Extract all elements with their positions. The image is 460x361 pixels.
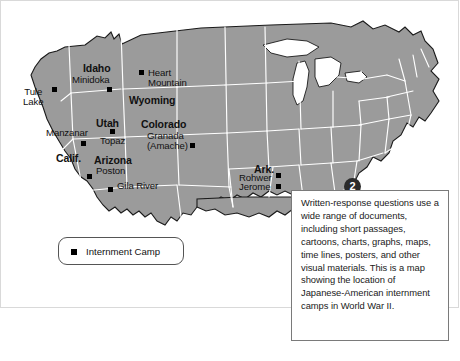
camp-marker-jerome bbox=[276, 184, 281, 189]
state-label-idaho: Idaho bbox=[83, 63, 111, 74]
camp-label-heart-mountain-line2: Mountain bbox=[148, 78, 187, 88]
camp-marker-poston bbox=[87, 174, 92, 179]
camp-label-minidoka: Minidoka bbox=[72, 75, 110, 85]
camp-marker-heart-mountain bbox=[139, 70, 144, 75]
camp-label-jerome: Jerome bbox=[239, 182, 270, 192]
map-legend: Internment Camp bbox=[58, 237, 184, 265]
camp-label-granada-line2: (Amache) bbox=[147, 141, 188, 151]
camp-marker-granada-amache bbox=[190, 143, 195, 148]
callout-box: Written-response questions use a wide ra… bbox=[291, 190, 449, 341]
camp-marker-gila-river bbox=[108, 187, 113, 192]
camp-marker-manzanar bbox=[81, 141, 86, 146]
figure-root: Idaho Wyoming Utah Colorado Calif. Arizo… bbox=[0, 0, 460, 361]
state-label-calif: Calif. bbox=[56, 153, 81, 164]
camp-label-topaz: Topaz bbox=[100, 136, 125, 146]
camp-label-poston: Poston bbox=[96, 166, 125, 176]
state-label-utah: Utah bbox=[96, 118, 119, 129]
legend-label: Internment Camp bbox=[86, 246, 160, 257]
camp-marker-tule-lake bbox=[52, 87, 57, 92]
camp-label-gila-river: Gila River bbox=[117, 181, 158, 191]
camp-label-manzanar: Manzanar bbox=[46, 128, 88, 138]
camp-marker-minidoka bbox=[107, 87, 112, 92]
camp-label-heart-mountain: Heart Mountain bbox=[148, 68, 187, 87]
state-label-wyoming: Wyoming bbox=[129, 95, 175, 106]
camp-marker-topaz bbox=[110, 129, 115, 134]
camp-label-tule-lake-line2: Lake bbox=[23, 97, 43, 107]
state-label-colorado: Colorado bbox=[141, 119, 186, 130]
camp-label-tule-lake: Tule Lake bbox=[23, 87, 43, 106]
camp-marker-rohwer bbox=[276, 173, 281, 178]
legend-square-icon bbox=[71, 249, 77, 255]
camp-label-granada-amache: Granada (Amache) bbox=[147, 131, 188, 150]
callout-text: Written-response questions use a wide ra… bbox=[301, 197, 441, 313]
